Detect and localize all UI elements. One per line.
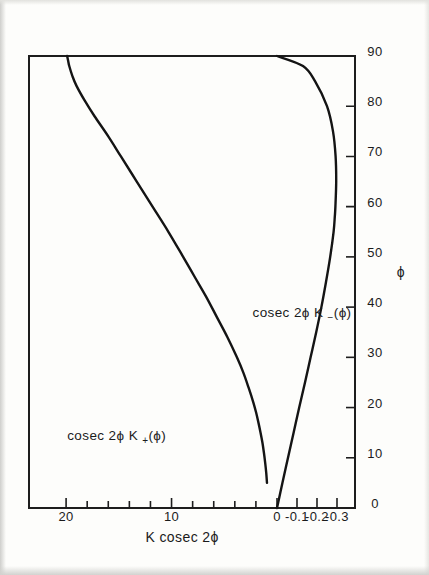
x-tick-label: 0 bbox=[371, 496, 379, 511]
scanned-figure-page: 0102030405060708090 01020-0.1-0.2-0.3 ϕ … bbox=[0, 0, 429, 575]
y-tick-label: 20 bbox=[58, 509, 73, 524]
y-tick-label: 10 bbox=[163, 509, 178, 524]
scan-edge-left bbox=[0, 0, 6, 575]
x-axis-ticks bbox=[346, 56, 355, 508]
x-tick-label: 60 bbox=[367, 194, 382, 209]
scan-edge-top bbox=[0, 0, 429, 5]
curve-label-k-minus: cosec 2ϕ K −(ϕ) bbox=[252, 305, 351, 323]
chart-figure: 0102030405060708090 01020-0.1-0.2-0.3 ϕ … bbox=[15, 28, 415, 548]
x-axis-tick-labels: 0102030405060708090 bbox=[367, 44, 382, 511]
curve-label-k-minus-text: cosec 2ϕ K −(ϕ) bbox=[252, 305, 351, 323]
y-axis-ticks bbox=[66, 498, 337, 508]
y-axis-tick-labels: 01020-0.1-0.2-0.3 bbox=[58, 509, 349, 524]
x-tick-label: 70 bbox=[367, 144, 382, 159]
curve-label-subscript: + bbox=[142, 435, 148, 446]
x-tick-label: 20 bbox=[367, 395, 382, 410]
x-tick-label: 30 bbox=[367, 345, 382, 360]
scan-edge-bottom bbox=[0, 566, 429, 575]
curve-label-k-plus-text: cosec 2ϕ K +(ϕ) bbox=[67, 428, 166, 446]
x-tick-label: 40 bbox=[367, 295, 382, 310]
x-tick-label: 10 bbox=[367, 445, 382, 460]
rotated-figure-stage: 0102030405060708090 01020-0.1-0.2-0.3 ϕ … bbox=[15, 28, 415, 548]
curve-upper-k-plus bbox=[67, 56, 267, 483]
curve-label-base: cosec 2ϕ K bbox=[67, 428, 142, 443]
curve-label-argument: (ϕ) bbox=[333, 305, 351, 320]
y-tick-label: 0 bbox=[273, 509, 281, 524]
y-axis-title: K cosec 2ϕ bbox=[145, 529, 218, 545]
x-tick-label: 80 bbox=[367, 94, 382, 109]
curve-label-base: cosec 2ϕ K bbox=[252, 305, 327, 320]
scan-edge-right bbox=[424, 0, 429, 575]
x-tick-label: 90 bbox=[367, 44, 382, 59]
curve-label-subscript: − bbox=[327, 312, 333, 323]
x-tick-label: 50 bbox=[367, 244, 382, 259]
curve-lower-k-minus bbox=[277, 56, 336, 508]
curve-label-k-plus: cosec 2ϕ K +(ϕ) bbox=[67, 428, 166, 446]
x-axis-title: ϕ bbox=[396, 263, 404, 279]
curve-label-argument: (ϕ) bbox=[148, 428, 166, 443]
plot-svg: 0102030405060708090 01020-0.1-0.2-0.3 ϕ … bbox=[15, 28, 415, 548]
y-tick-label: -0.3 bbox=[324, 509, 348, 524]
